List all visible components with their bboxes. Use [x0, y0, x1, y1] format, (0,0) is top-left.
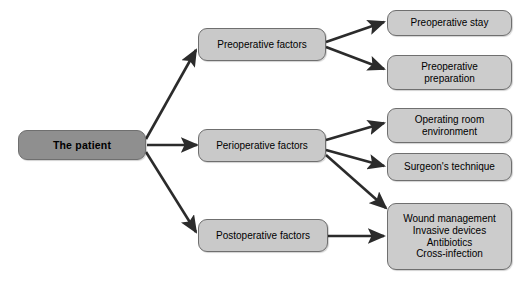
node-surgeons-technique-label: Surgeon's technique: [400, 161, 499, 173]
edge-patient-postoperative: [146, 152, 196, 232]
node-preoperative-factors[interactable]: Preoperative factors: [198, 28, 326, 61]
node-preoperative-factors-label: Preoperative factors: [213, 39, 311, 51]
node-preoperative-preparation[interactable]: Preoperative preparation: [387, 55, 512, 90]
node-the-patient-label: The patient: [49, 139, 115, 151]
node-preoperative-stay[interactable]: Preoperative stay: [387, 10, 512, 36]
node-operating-room-environment-label: Operating room environment: [411, 114, 488, 138]
node-preoperative-stay-label: Preoperative stay: [407, 17, 493, 29]
edge-preoperative-stay: [326, 22, 384, 42]
node-operating-room-environment[interactable]: Operating room environment: [387, 108, 512, 143]
node-perioperative-factors[interactable]: Perioperative factors: [198, 129, 326, 162]
node-postoperative-factors-label: Postoperative factors: [212, 230, 314, 242]
node-surgeons-technique[interactable]: Surgeon's technique: [387, 153, 512, 181]
edge-preoperative-preparation: [326, 47, 384, 69]
node-postoperative-factors[interactable]: Postoperative factors: [198, 219, 328, 252]
edge-patient-preoperative: [146, 50, 196, 139]
node-perioperative-factors-label: Perioperative factors: [212, 140, 312, 152]
diagram-canvas: The patient Preoperative factors Periope…: [0, 0, 525, 283]
edge-perioperative-environment: [326, 123, 384, 140]
node-preoperative-preparation-label: Preoperative preparation: [417, 61, 482, 85]
node-postoperative-care[interactable]: Wound management Invasive devices Antibi…: [387, 203, 512, 270]
node-postoperative-care-label: Wound management Invasive devices Antibi…: [399, 213, 500, 260]
node-the-patient[interactable]: The patient: [18, 130, 146, 160]
